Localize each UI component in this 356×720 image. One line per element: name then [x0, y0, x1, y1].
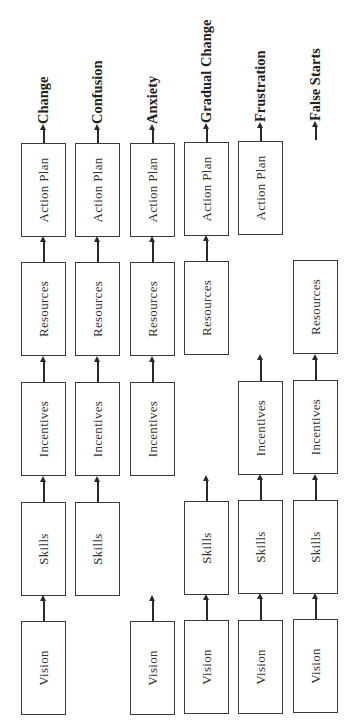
box-label: Action Plan	[90, 157, 106, 222]
box-action-plan: Action Plan	[238, 141, 283, 235]
outcome-label: Change	[35, 76, 52, 124]
box-label: Action Plan	[253, 155, 269, 220]
arrow-up-icon	[152, 129, 154, 143]
box-label: Resources	[90, 281, 106, 337]
arrow-up-icon	[152, 600, 154, 621]
arrow-up-icon	[315, 359, 317, 380]
box-incentives: Incentives	[293, 380, 338, 474]
box-skills: Skills	[238, 500, 283, 594]
arrow-up-icon	[43, 129, 45, 143]
box-resources: Resources	[75, 262, 120, 356]
arrow-up-icon	[206, 128, 208, 142]
box-vision: Vision	[21, 621, 66, 715]
arrow-up-icon	[206, 599, 208, 620]
arrow-up-icon	[152, 241, 154, 262]
arrow-up-icon	[206, 240, 208, 261]
box-label: Vision	[36, 650, 52, 686]
arrow-up-icon	[206, 480, 208, 501]
box-label: Resources	[145, 281, 161, 337]
box-label: Incentives	[90, 401, 106, 457]
box-skills: Skills	[75, 502, 120, 596]
box-action-plan: Action Plan	[130, 143, 175, 237]
box-label: Resources	[199, 280, 215, 336]
box-action-plan: Action Plan	[21, 143, 66, 237]
arrow-up-icon	[260, 479, 262, 500]
arrow-up-icon	[43, 361, 45, 382]
box-skills: Skills	[21, 502, 66, 596]
arrow-up-icon	[43, 600, 45, 621]
arrow-up-icon	[97, 481, 99, 502]
box-label: Incentives	[253, 400, 269, 456]
box-label: Skills	[199, 532, 215, 563]
box-resources: Resources	[130, 262, 175, 356]
box-skills: Skills	[293, 500, 338, 594]
arrow-up-icon	[97, 361, 99, 382]
box-resources: Resources	[184, 261, 229, 355]
box-label: Skills	[308, 531, 324, 562]
arrow-up-icon	[43, 241, 45, 262]
box-label: Action Plan	[36, 157, 52, 222]
box-vision: Vision	[293, 619, 338, 713]
arrow-up-icon	[315, 598, 317, 619]
box-label: Vision	[253, 649, 269, 685]
arrow-up-icon	[315, 126, 317, 140]
box-action-plan: Action Plan	[184, 142, 229, 236]
outcome-label: False Starts	[307, 48, 324, 121]
box-label: Incentives	[36, 401, 52, 457]
arrow-up-icon	[260, 598, 262, 620]
box-label: Resources	[36, 281, 52, 337]
box-resources: Resources	[293, 260, 338, 354]
arrow-up-icon	[97, 129, 99, 143]
outcome-label: Gradual Change	[198, 19, 215, 123]
box-action-plan: Action Plan	[75, 143, 120, 237]
box-vision: Vision	[184, 620, 229, 714]
box-label: Incentives	[308, 399, 324, 455]
box-incentives: Incentives	[130, 382, 175, 476]
box-label: Skills	[253, 531, 269, 562]
box-vision: Vision	[238, 620, 283, 714]
box-label: Incentives	[145, 401, 161, 457]
box-label: Action Plan	[199, 156, 215, 221]
arrow-up-icon	[260, 359, 262, 381]
box-label: Skills	[36, 533, 52, 564]
outcome-label: Frustration	[252, 50, 269, 122]
box-vision: Vision	[130, 621, 175, 715]
box-label: Vision	[308, 648, 324, 684]
box-label: Skills	[90, 533, 106, 564]
outcome-label: Confusion	[89, 60, 106, 124]
box-incentives: Incentives	[75, 382, 120, 476]
box-skills: Skills	[184, 501, 229, 595]
box-incentives: Incentives	[21, 382, 66, 476]
outcome-label: Anxiety	[144, 76, 161, 124]
arrow-up-icon	[315, 479, 317, 500]
arrow-up-icon	[260, 127, 262, 141]
box-label: Resources	[308, 279, 324, 335]
box-incentives: Incentives	[238, 381, 283, 475]
arrow-up-icon	[43, 481, 45, 502]
arrow-up-icon	[97, 241, 99, 262]
arrow-up-icon	[152, 361, 154, 382]
box-label: Vision	[199, 649, 215, 685]
box-resources: Resources	[21, 262, 66, 356]
box-label: Vision	[145, 650, 161, 686]
box-label: Action Plan	[145, 157, 161, 222]
